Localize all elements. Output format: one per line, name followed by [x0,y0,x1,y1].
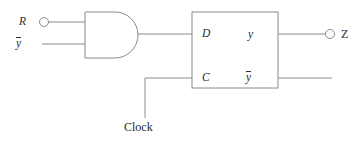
overbar-span-input-ybar: y [16,37,21,50]
label-ff-input-d: D [202,28,210,40]
wire-clock-to-c [145,78,192,118]
circuit-diagram-canvas: R y D y C y Z Clock [0,0,364,143]
overbar-span-output-ybar: y [246,71,251,84]
label-ff-output-ybar: y [246,71,251,84]
label-clock: Clock [124,121,153,133]
schematic-svg [0,0,364,143]
label-input-r: R [19,16,26,28]
label-ff-input-c: C [202,72,210,84]
and-gate-body [85,12,138,58]
label-input-ybar: y [16,37,21,50]
z-output-terminal-circle [326,30,335,39]
label-output-z: Z [341,28,348,40]
r-input-terminal-circle [40,18,49,27]
label-ff-output-y: y [248,29,253,41]
